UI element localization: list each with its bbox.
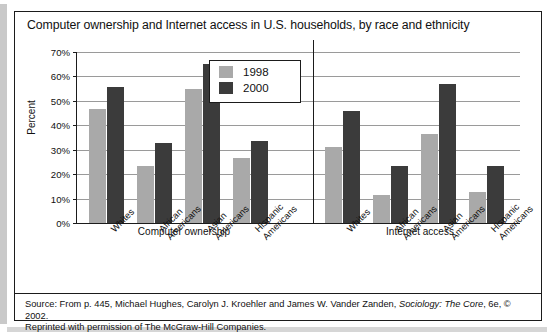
y-axis-tick xyxy=(73,52,77,53)
bar-internet-access-whites-2000 xyxy=(343,111,360,223)
y-axis-tick xyxy=(73,101,77,102)
y-axis-tick xyxy=(73,199,77,200)
panel-label-internet-access: Internet access xyxy=(362,226,478,237)
panel-divider xyxy=(313,40,314,223)
legend-swatch-icon-1998 xyxy=(219,66,233,78)
legend-item-2000: 2000 xyxy=(219,82,300,94)
figure-container: Computer ownership and Internet access i… xyxy=(14,11,542,321)
chart-legend: 1998 2000 xyxy=(209,60,301,103)
y-axis-tick xyxy=(73,174,77,175)
source-text-prefix: Source: From p. 445, Michael Hughes, Car… xyxy=(25,299,399,309)
legend-label-1998: 1998 xyxy=(243,66,269,78)
chart-plot-wrapper: Percent 0%10%20%30%40%50%60%70% WhitesAf… xyxy=(15,40,543,255)
y-axis-tick xyxy=(73,223,77,224)
y-axis-tick xyxy=(73,150,77,151)
bar-computer-ownership-whites-1998 xyxy=(89,109,106,223)
y-axis-tick-label: 30% xyxy=(51,144,70,155)
source-text-italic: Sociology: The Core xyxy=(399,299,483,309)
figure-title: Computer ownership and Internet access i… xyxy=(27,18,469,32)
y-axis-tick-label: 40% xyxy=(51,120,70,131)
bar-internet-access-african-americans-1998 xyxy=(373,195,390,223)
y-axis-tick-label: 20% xyxy=(51,169,70,180)
legend-label-2000: 2000 xyxy=(243,82,269,94)
bar-computer-ownership-whites-2000 xyxy=(107,87,124,223)
y-axis-title: Percent xyxy=(26,88,37,148)
y-axis-tick-label: 10% xyxy=(51,193,70,204)
y-axis-tick xyxy=(73,125,77,126)
y-axis-tick-label: 50% xyxy=(51,95,70,106)
legend-item-1998: 1998 xyxy=(219,66,300,78)
y-axis-tick-label: 0% xyxy=(56,218,70,229)
legend-swatch-icon-2000 xyxy=(219,82,233,94)
bar-computer-ownership-hispanic-americans-2000 xyxy=(251,141,268,223)
gridline xyxy=(77,52,520,53)
y-axis-tick-label: 60% xyxy=(51,71,70,82)
bar-computer-ownership-african-americans-2000 xyxy=(155,143,172,223)
bar-internet-access-whites-1998 xyxy=(325,147,342,223)
y-axis-tick xyxy=(73,76,77,77)
page-left-gutter xyxy=(0,4,7,324)
panel-label-computer-ownership: Computer ownership xyxy=(126,226,242,237)
y-axis-tick-label: 70% xyxy=(51,47,70,58)
source-note: Source: From p. 445, Michael Hughes, Car… xyxy=(25,299,531,332)
bar-internet-access-asian-americans-2000 xyxy=(439,84,456,223)
source-divider xyxy=(15,293,541,294)
bar-computer-ownership-african-americans-1998 xyxy=(137,166,154,223)
source-text-line2: Reprinted with permission of The McGraw-… xyxy=(25,322,266,332)
